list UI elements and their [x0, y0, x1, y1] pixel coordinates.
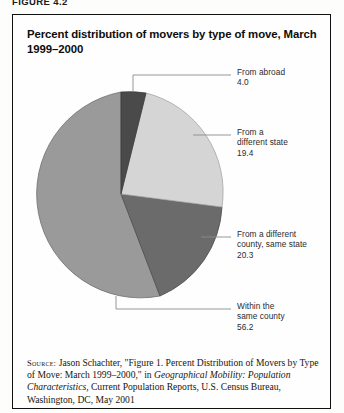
callout-label-from-different-county-line2: county, same state: [237, 239, 307, 249]
callout-value-within-same-county: 56.2: [237, 322, 285, 332]
callout-label-from-different-county-line1: From a different: [237, 229, 296, 239]
figure-title: Percent distribution of movers by type o…: [27, 27, 317, 56]
callout-label-from-different-state-line2: different state: [237, 137, 288, 147]
callout-label-from-abroad: From abroad: [237, 67, 285, 77]
pie-chart: From abroad 4.0 From a different state 1…: [13, 59, 332, 334]
callout-from-abroad: From abroad 4.0: [237, 67, 285, 88]
source-label: Source:: [27, 358, 56, 368]
callout-label-within-same-county-line2: same county: [237, 311, 285, 321]
callout-value-from-different-state: 19.4: [237, 148, 288, 158]
callout-from-different-state: From a different state 19.4: [237, 127, 288, 158]
callout-from-different-county: From a different county, same state 20.3: [237, 229, 307, 260]
callout-value-from-different-county: 20.3: [237, 250, 307, 260]
callout-value-from-abroad: 4.0: [237, 77, 285, 87]
callout-label-within-same-county-line1: Within the: [237, 301, 274, 311]
callout-within-same-county: Within the same county 56.2: [237, 301, 285, 332]
figure-box: Percent distribution of movers by type o…: [12, 14, 331, 409]
leader-line-from-abroad: [133, 75, 231, 92]
callout-label-from-different-state-line1: From a: [237, 127, 264, 137]
pie-chart-svg: [13, 59, 332, 334]
figure-number-header: FIGURE 4.2: [12, 0, 68, 7]
source-note: Source: Jason Schachter, "Figure 1. Perc…: [27, 357, 321, 406]
